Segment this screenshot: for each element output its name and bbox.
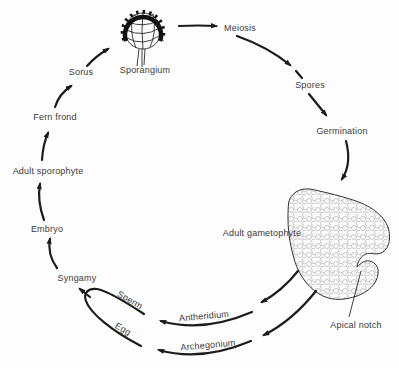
label-sorus: Sorus xyxy=(69,67,94,77)
label-spores: Spores xyxy=(295,80,325,90)
label-adult-gametophyte: Adult gametophyte xyxy=(223,228,301,238)
arrow-meiosis-to-spores xyxy=(237,36,290,65)
arrow-gametophyte-to-antheridium xyxy=(262,271,298,302)
label-meiosis: Meiosis xyxy=(224,23,256,33)
arrow-sporophyte-to-frond xyxy=(42,133,48,160)
label-fern-frond: Fern frond xyxy=(33,112,77,122)
arrow-spores-to-germination xyxy=(309,94,326,115)
fern-life-cycle-diagram: Sporangium Meiosis Spores Germination Ad… xyxy=(0,0,399,368)
label-embryo: Embryo xyxy=(31,224,63,234)
arrow-sorus-to-sporangium xyxy=(87,49,108,66)
label-germination: Germination xyxy=(316,126,367,136)
arrow-gametophyte-to-archegonium xyxy=(264,291,316,335)
arrow-meiosis-to-spores-dash xyxy=(296,71,302,78)
arrow-syngamy-to-embryo xyxy=(49,239,57,268)
gametophyte-outline xyxy=(288,189,390,299)
gametophyte-illustration xyxy=(288,189,390,317)
sporangium-illustration xyxy=(122,12,163,67)
arrow-germination-to-gametophyte xyxy=(342,141,348,179)
label-syngamy: Syngamy xyxy=(58,273,97,283)
arrow-sporangium-to-meiosis xyxy=(179,26,216,27)
label-adult-sporophyte: Adult sporophyte xyxy=(13,166,84,176)
arrow-embryo-to-sporophyte xyxy=(39,184,44,220)
label-sporangium: Sporangium xyxy=(120,65,171,75)
label-apical-notch: Apical notch xyxy=(330,320,381,330)
arrow-frond-to-sorus xyxy=(55,86,71,107)
